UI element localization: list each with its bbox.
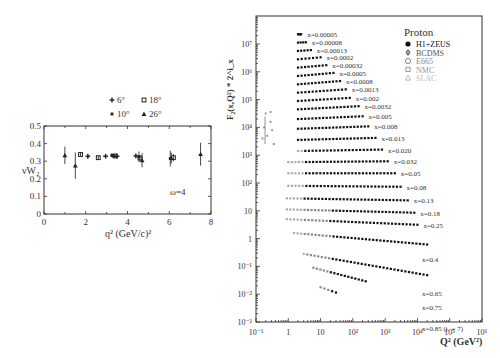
bin-label: x=0.13: [414, 197, 434, 205]
y-tick-label: 10²: [242, 179, 253, 188]
bin-series: [312, 267, 366, 283]
bin-series: [287, 172, 396, 174]
y-tick-label: 0.5: [30, 121, 42, 131]
y-tick-label: 10⁷: [241, 40, 252, 49]
y-tick-label: 0.1: [30, 191, 41, 201]
x-tick-label: 10³: [380, 328, 391, 337]
bin-series: [287, 185, 401, 188]
y-tick-label: 10³: [242, 151, 253, 160]
triangle-marker-icon: [198, 152, 203, 156]
left-chart-nuW2-vs-q2: 6°18°10°26° 0246800.10.20.30.40.5 νW₂ q²…: [0, 0, 500, 358]
legend-label: 6°: [117, 95, 126, 105]
bin-series: [297, 33, 302, 35]
plus-marker-icon: [110, 98, 115, 103]
x-tick-label: 4: [125, 217, 130, 227]
x-tick-label: 10⁻¹: [249, 328, 264, 337]
bin-series: [297, 49, 312, 52]
bin-series: [286, 218, 419, 226]
bin-label: x=0.00008: [312, 39, 343, 47]
bin-series: [297, 97, 351, 102]
triangle-marker-icon: [73, 163, 78, 167]
cross-marker-icon: [111, 113, 114, 116]
left-chart-axes: 0246800.10.20.30.40.5: [30, 121, 214, 227]
right-chart-x-axis-label: Q² (GeV²): [440, 336, 482, 348]
left-chart-x-axis-label: q² (GeV/c)²: [105, 228, 151, 240]
bin-series: [297, 88, 347, 93]
bin-series: [286, 197, 409, 201]
bin-series: [297, 41, 307, 44]
bin-label: x=0.05: [401, 170, 421, 178]
bin-label: x=0.032: [394, 158, 418, 166]
y-tick-label: 10⁻³: [237, 318, 252, 327]
left-chart-annotation: ω=4: [170, 187, 186, 197]
legend-label: 18°: [149, 95, 162, 105]
left-chart-y-axis-label: νW₂: [22, 165, 39, 176]
y-tick-label: 1: [248, 235, 252, 244]
bin-label: x=0.002: [356, 95, 380, 103]
bin-label: x=0.00005: [307, 31, 338, 39]
square-open-marker-icon: [142, 98, 146, 102]
y-tick-label: 10⁴: [241, 123, 252, 132]
legend-label: SLAC: [416, 74, 436, 83]
bin-label: x=0.0013: [352, 86, 379, 94]
open-square-marker-icon: [406, 67, 410, 71]
filled-circle-marker-icon: [405, 41, 410, 46]
x-tick-label: 10: [317, 328, 325, 337]
slac-low-q2-points: [261, 111, 274, 145]
bin-series: [297, 72, 335, 77]
open-circle-marker-icon: [405, 58, 410, 63]
bin-label: x=0.0008: [346, 78, 373, 86]
bin-label: x=0.0002: [327, 54, 354, 62]
x-tick-label: 10²: [348, 328, 359, 337]
bin-series: [303, 253, 429, 276]
bin-label: x=0.25: [423, 222, 443, 230]
x-tick-label: 6: [167, 217, 172, 227]
bin-series: [297, 80, 341, 85]
y-tick-label: 10⁵: [241, 96, 252, 105]
bin-series: [297, 56, 322, 60]
x-tick-label: 8: [209, 217, 214, 227]
bin-series: [319, 286, 337, 294]
triangle-marker-icon: [62, 153, 67, 157]
bin-label: x=0.08: [407, 184, 427, 192]
bin-label: x=0.0005: [339, 70, 366, 78]
y-tick-label: 10⁻²: [237, 290, 252, 299]
bin-series: [297, 148, 383, 152]
plot-frame: [44, 126, 211, 214]
bin-series: [286, 208, 416, 213]
y-tick-label: 10⁻¹: [237, 262, 252, 271]
y-tick-label: 0.4: [30, 139, 42, 149]
bin-label: x=0.4: [422, 256, 439, 264]
y-tick-label: 10: [244, 207, 252, 216]
bin-series: [297, 137, 377, 141]
bin-label: x=0.18: [420, 210, 440, 218]
legend-label: 26°: [149, 109, 162, 119]
legend-label: 10°: [117, 109, 130, 119]
bin-series: [297, 64, 327, 69]
bin-label: x=0.75: [422, 304, 442, 312]
left-chart-data-points: [62, 143, 202, 179]
bin-label: x=0.005: [369, 113, 393, 121]
bin-series: [297, 115, 364, 120]
x-tick-label: 0: [42, 217, 47, 227]
x-tick-label: 1: [286, 328, 290, 337]
x-tick-label: 2: [84, 217, 89, 227]
right-chart-legend: H1+ZEUSBCDMSE665NMCSLAC: [405, 40, 450, 83]
plus-marker-icon: [133, 154, 138, 159]
y-tick-label: 0: [37, 209, 42, 219]
open-triangle-marker-icon: [405, 75, 410, 80]
star-marker-icon: [406, 49, 410, 55]
plus-marker-icon: [103, 154, 108, 159]
y-tick-label: 10⁶: [241, 68, 252, 77]
bin-label: x=0.0032: [365, 103, 392, 111]
bin-label: x=0.008: [374, 123, 398, 131]
triangle-marker-icon: [142, 112, 147, 116]
bin-series: [297, 105, 360, 110]
bin-label: x=0.013: [381, 135, 405, 143]
plus-marker-icon: [85, 154, 90, 159]
right-chart-y-axis-label: F₂(x,Q²) * 2^i_x: [225, 59, 235, 120]
right-chart-title: Proton: [404, 26, 434, 38]
bin-label: x=0.85 (iₓ = 7): [422, 325, 464, 333]
bin-label: x=0.020: [388, 147, 412, 155]
bin-label: x=0.65: [422, 290, 442, 298]
